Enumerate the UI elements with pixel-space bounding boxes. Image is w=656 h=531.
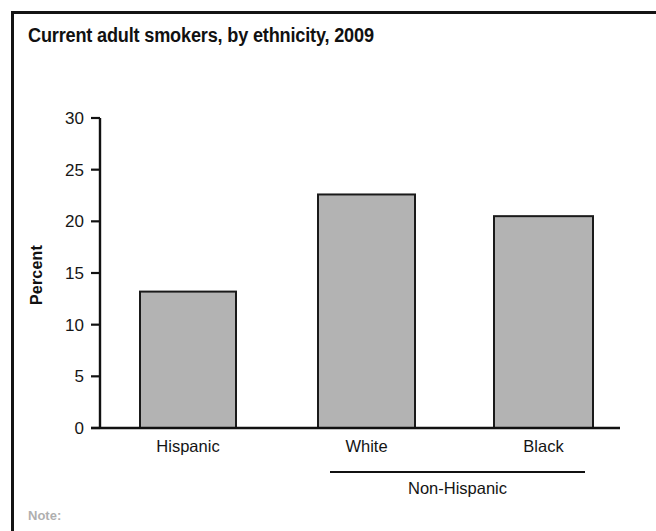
- y-tick-label: 5: [75, 367, 84, 386]
- footnote-partial: Note:: [28, 508, 61, 523]
- category-label-white: White: [345, 437, 387, 455]
- y-tick-label: 15: [65, 264, 84, 283]
- category-labels-group: HispanicWhiteBlack: [156, 437, 564, 455]
- group-label-non-hispanic: Non-Hispanic: [408, 479, 507, 497]
- group-bracket-group: Non-Hispanic: [330, 472, 585, 497]
- y-axis-ticks-group: 051015202530: [65, 109, 100, 438]
- bar-white: [318, 194, 415, 428]
- y-tick-label: 20: [65, 212, 84, 231]
- category-label-hispanic: Hispanic: [156, 437, 219, 455]
- y-tick-label: 25: [65, 161, 84, 180]
- bars-group: [140, 194, 593, 428]
- bar-black: [494, 216, 593, 428]
- y-tick-label: 10: [65, 316, 84, 335]
- bar-hispanic: [140, 292, 236, 428]
- y-tick-label: 30: [65, 109, 84, 128]
- y-axis-title: Percent: [28, 244, 45, 305]
- y-tick-label: 0: [75, 419, 84, 438]
- y-axis-title-group: Percent: [28, 244, 45, 305]
- category-label-black: Black: [523, 437, 564, 455]
